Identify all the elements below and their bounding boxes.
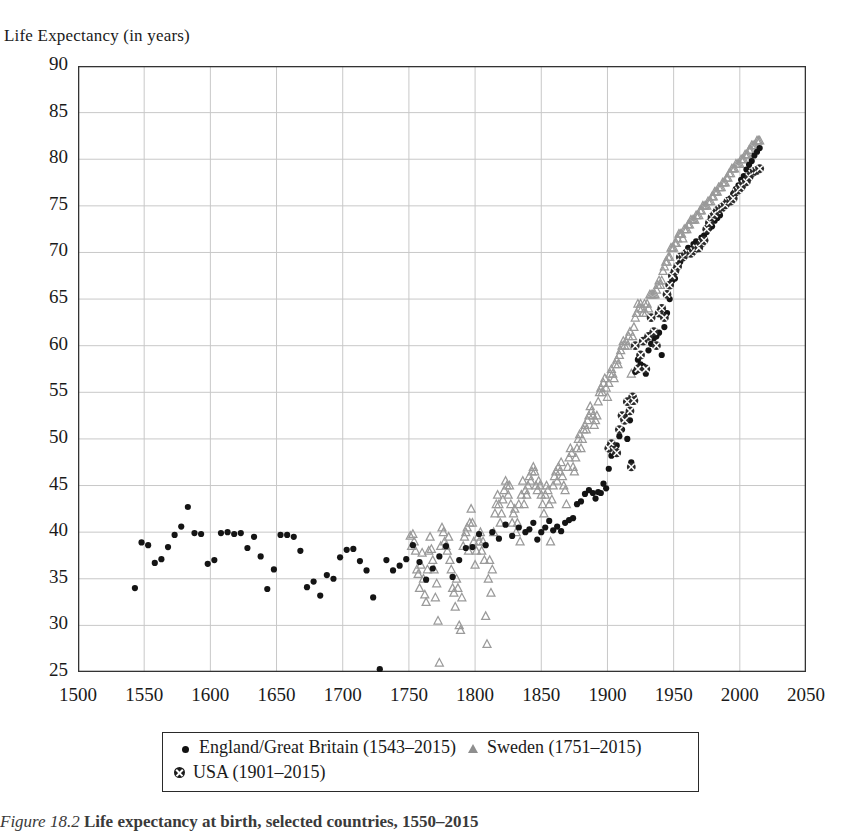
y-tick-label: 45 bbox=[16, 473, 68, 495]
x-tick-label: 1800 bbox=[443, 684, 507, 706]
y-tick-label: 70 bbox=[16, 239, 68, 261]
figure-caption: Figure 18.2 Life expectancy at birth, se… bbox=[0, 812, 858, 832]
y-tick-label: 80 bbox=[16, 146, 68, 168]
x-tick-label: 1500 bbox=[46, 684, 110, 706]
y-tick-label: 35 bbox=[16, 566, 68, 588]
legend-label-sweden: Sweden (1751–2015) bbox=[487, 737, 641, 758]
y-tick-label: 30 bbox=[16, 612, 68, 634]
x-tick-label: 1950 bbox=[642, 684, 706, 706]
plot-area bbox=[78, 66, 806, 672]
legend-label-usa: USA (1901–2015) bbox=[193, 762, 326, 783]
y-tick-label: 25 bbox=[16, 659, 68, 681]
legend-item-sweden: Sweden (1751–2015) bbox=[463, 737, 641, 758]
x-tick-label: 1850 bbox=[509, 684, 573, 706]
legend-item-usa: USA (1901–2015) bbox=[169, 762, 326, 783]
legend-label-england: England/Great Britain (1543–2015) bbox=[199, 737, 456, 758]
y-tick-label: 65 bbox=[16, 286, 68, 308]
filled-circle-marker-icon bbox=[175, 737, 195, 758]
x-tick-label: 1600 bbox=[178, 684, 242, 706]
open-triangle-marker-icon bbox=[463, 737, 483, 758]
caption-text: Life expectancy at birth, selected count… bbox=[84, 812, 479, 831]
chart-legend: England/Great Britain (1543–2015) Sweden… bbox=[162, 732, 699, 792]
x-tick-label: 1700 bbox=[311, 684, 375, 706]
y-tick-label: 75 bbox=[16, 193, 68, 215]
x-tick-label: 2050 bbox=[774, 684, 838, 706]
legend-item-england: England/Great Britain (1543–2015) bbox=[175, 737, 456, 758]
x-tick-label: 1900 bbox=[575, 684, 639, 706]
figure-life-expectancy: Life Expectancy (in years) 2530354045505… bbox=[0, 0, 858, 832]
plot-border bbox=[79, 67, 806, 672]
figure-number: Figure 18.2 bbox=[0, 812, 80, 831]
tick-marks bbox=[78, 66, 806, 672]
x-tick-label: 1750 bbox=[377, 684, 441, 706]
y-tick-label: 90 bbox=[16, 53, 68, 75]
y-axis-label: Life Expectancy (in years) bbox=[4, 26, 190, 46]
y-tick-label: 55 bbox=[16, 379, 68, 401]
y-tick-label: 85 bbox=[16, 100, 68, 122]
y-tick-label: 40 bbox=[16, 519, 68, 541]
x-tick-label: 1650 bbox=[245, 684, 309, 706]
x-tick-label: 1550 bbox=[112, 684, 176, 706]
y-tick-label: 50 bbox=[16, 426, 68, 448]
crossed-circle-marker-icon bbox=[169, 762, 189, 783]
x-tick-label: 2000 bbox=[708, 684, 772, 706]
gridlines bbox=[78, 66, 806, 672]
y-tick-label: 60 bbox=[16, 333, 68, 355]
scatter-plot-svg bbox=[78, 66, 806, 672]
series-england-points bbox=[132, 145, 763, 672]
